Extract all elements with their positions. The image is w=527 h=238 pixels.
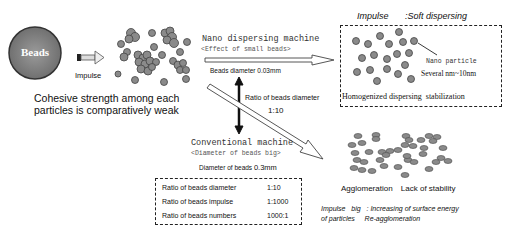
conventional-title: Conventional machine — [191, 138, 293, 148]
agglomeration-caption: Agglomeration Lack of stability — [341, 184, 456, 193]
impulse-arrow-icon — [77, 51, 104, 64]
impulse-heading: Impulse :Soft dispersing — [357, 11, 467, 21]
impulse-note-line-2: of particles Re-agglomeration — [321, 215, 420, 222]
impulse-heading-right: :Soft dispersing — [405, 11, 467, 21]
ratio-row: Ratio of beads diameter 1:10 — [162, 181, 297, 195]
nano-particle-label: Nano particle — [426, 58, 477, 65]
ratio-row-value: 1000:1 — [267, 209, 297, 223]
conventional-subtitle: <Diameter of beads big> — [191, 150, 281, 157]
ratio-value: 1:10 — [268, 106, 284, 115]
clustered-particles — [115, 27, 191, 86]
nano-size-label: Several nm~10nm — [421, 69, 476, 78]
cohesive-line-1: Cohesive strength among each — [34, 92, 179, 104]
nano-machine-subtitle: <Effect of small beads> — [201, 46, 291, 53]
ratio-row-value: 1:1000 — [267, 195, 297, 209]
beads-label: Beads — [13, 46, 57, 58]
ratio-label: Ratio of beads diameter — [245, 94, 319, 101]
ratio-row: Ratio of beads impulse 1:1000 — [162, 195, 297, 209]
ratio-row-label: Ratio of beads numbers — [162, 209, 236, 223]
conventional-diameter-label: Diameter of beads — [199, 164, 252, 171]
nano-machine-title: Nano dispersing machine — [202, 34, 319, 44]
nano-beads-diameter: Beads diameter 0.03mm — [210, 67, 281, 74]
ratio-table: Ratio of beads diameter 1:10 Ratio of be… — [162, 181, 297, 223]
nano-arrow-icon — [205, 55, 334, 65]
ratio-row-label: Ratio of beads diameter — [162, 181, 236, 195]
impulse-label: Impulse — [75, 71, 101, 80]
impulse-note-line-1: Impulse big : Increasing of surface ener… — [321, 205, 459, 212]
conventional-diameter: Diameter of beads 0.3mm — [199, 163, 277, 172]
agglomerated-particles — [348, 133, 452, 178]
ratio-row: Ratio of beads numbers 1000:1 — [162, 209, 297, 223]
ratio-row-value: 1:10 — [267, 181, 297, 195]
conventional-diameter-value: 0.3mm — [254, 163, 277, 172]
ratio-row-label: Ratio of beads impulse — [162, 195, 233, 209]
agglomeration-label: Agglomeration — [341, 184, 393, 193]
cohesive-line-2: particles is comparatively weak — [34, 104, 179, 116]
impulse-heading-left: Impulse — [357, 11, 389, 21]
homogenized-footer: Homogenized dispersing stabilization — [342, 92, 465, 101]
lack-of-stability-label: Lack of stability — [401, 184, 456, 193]
